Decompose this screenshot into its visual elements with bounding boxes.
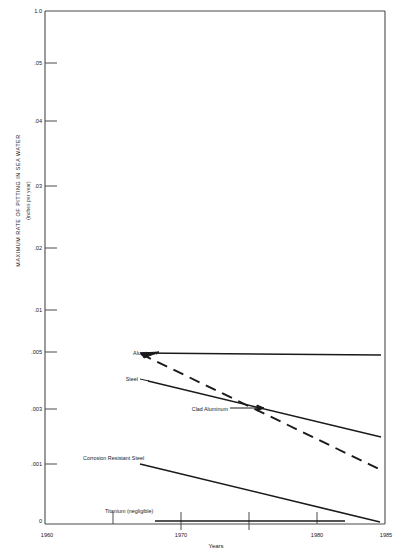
series-line-corrosion-resistant-steel [140, 464, 380, 522]
series-line-clad-aluminum [141, 354, 381, 470]
series-line-aluminum [140, 353, 381, 355]
y-axis-ticks [45, 63, 57, 464]
axis-frame [45, 11, 385, 524]
series-line-steel [148, 381, 381, 437]
chart-plot-area [0, 0, 401, 552]
label-leader-lines [140, 352, 264, 411]
pitting-rate-chart: MAXIMUM RATE OF PITTING IN SEA WATER (in… [0, 0, 401, 552]
